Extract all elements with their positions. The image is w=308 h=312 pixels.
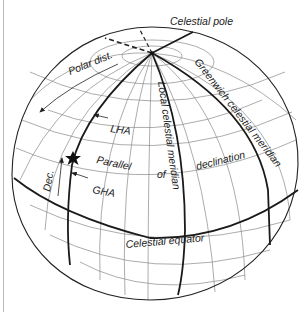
lha-arrow — [94, 115, 108, 118]
celestial-pole-label: Celestial pole — [170, 15, 233, 27]
declination-label: declination — [195, 148, 247, 172]
greenwich-meridian-upper — [152, 32, 193, 53]
parallel-label: Parallel — [96, 153, 133, 172]
gha-arrow — [72, 173, 88, 178]
gha-label: GHA — [92, 183, 117, 199]
lha-label: LHA — [110, 122, 132, 137]
sphere-outline — [12, 27, 298, 300]
dec-label: Dec. — [40, 169, 56, 192]
celestial-sphere-diagram: Celestial pole Polar dist. LHA Local cel… — [0, 0, 308, 312]
parallels-grid — [16, 40, 296, 285]
of-label: of — [157, 168, 167, 180]
celestial-pole-point — [150, 51, 154, 55]
polar-dist-label: Polar dist. — [66, 48, 114, 77]
